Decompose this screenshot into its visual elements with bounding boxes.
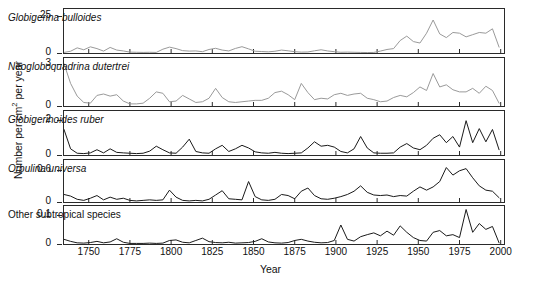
- data-series-line: [64, 210, 499, 244]
- y-tick-mark: [57, 170, 62, 171]
- y-tick-mark: [57, 53, 62, 54]
- y-tick-mark: [57, 106, 62, 107]
- x-tick-label: 2000: [481, 246, 521, 257]
- y-tick-label: 2: [11, 113, 51, 124]
- panel-plot-svg: [64, 58, 504, 106]
- x-axis-title: Year: [0, 263, 541, 275]
- x-tick-label: 1750: [69, 246, 109, 257]
- x-tick-label: 1775: [110, 246, 150, 257]
- y-tick-mark: [57, 16, 62, 17]
- x-tick-label: 1925: [357, 246, 397, 257]
- x-tick-label: 1900: [316, 246, 356, 257]
- panel-plot-svg: [64, 206, 504, 244]
- y-tick-mark: [57, 120, 62, 121]
- chart-panel: [63, 110, 505, 156]
- chart-panel: [63, 8, 505, 54]
- data-series-line: [64, 168, 499, 201]
- chart-panel: [63, 57, 505, 107]
- x-tick-label: 1850: [234, 246, 274, 257]
- y-tick-mark: [57, 215, 62, 216]
- x-tick-label: 1875: [275, 246, 315, 257]
- y-tick-label: 25: [11, 9, 51, 20]
- y-tick-label: 0: [11, 99, 51, 110]
- x-tick-label: 1800: [151, 246, 191, 257]
- y-tick-label: 0: [11, 148, 51, 159]
- y-tick-label: 0.1: [11, 208, 51, 219]
- data-series-line: [64, 64, 499, 104]
- chart-panel: [63, 205, 505, 245]
- data-series-line: [64, 121, 499, 154]
- y-tick-mark: [57, 202, 62, 203]
- data-series-line: [64, 20, 499, 53]
- panel-plot-svg: [64, 9, 504, 53]
- y-tick-mark: [57, 244, 62, 245]
- y-tick-mark: [57, 64, 62, 65]
- x-tick-label: 1950: [398, 246, 438, 257]
- y-tick-label: 3: [11, 57, 51, 68]
- x-tick-label: 1825: [192, 246, 232, 257]
- figure-container: Number per cm2 per year Globigerina bull…: [0, 0, 541, 287]
- y-tick-mark: [57, 155, 62, 156]
- y-tick-label: 0: [11, 195, 51, 206]
- panel-plot-svg: [64, 160, 504, 202]
- y-tick-label: 0: [11, 46, 51, 57]
- y-tick-label: 0: [11, 237, 51, 248]
- panel-plot-svg: [64, 111, 504, 155]
- chart-panel: [63, 159, 505, 203]
- y-tick-label: 0.6: [11, 163, 51, 174]
- x-tick-label: 1975: [440, 246, 480, 257]
